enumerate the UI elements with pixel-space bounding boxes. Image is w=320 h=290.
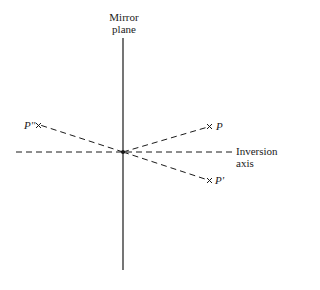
inversion-axis-label: Inversion axis [236, 145, 278, 169]
point-label-p: P [216, 120, 223, 132]
line-to-p-prime [123, 152, 208, 180]
marker-p-double-prime [36, 123, 41, 128]
point-label-p-prime: P' [215, 174, 224, 186]
inversion-axis-label-line2: axis [236, 157, 278, 169]
mirror-plane-label-line1: Mirror [103, 11, 145, 23]
marker-p-prime [207, 178, 212, 183]
mirror-plane-label-line2: plane [103, 23, 145, 35]
point-label-p-double-prime: P'' [24, 119, 35, 131]
inversion-axis-label-line1: Inversion [236, 145, 278, 157]
inversion-center [121, 150, 125, 154]
line-to-p-double-prime [40, 125, 123, 152]
line-to-p [123, 127, 208, 152]
mirror-plane-label: Mirror plane [103, 11, 145, 35]
marker-p [207, 124, 212, 129]
